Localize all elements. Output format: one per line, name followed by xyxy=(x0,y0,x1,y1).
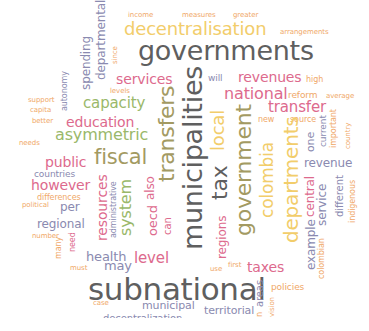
word-regions: regions xyxy=(216,216,228,259)
word-first: first xyxy=(228,262,241,269)
word-government: government xyxy=(233,104,255,236)
word-since: since xyxy=(112,46,119,64)
word-one: one xyxy=(305,132,316,152)
word-municipalities: municipalities xyxy=(179,66,206,250)
word-transfer: transfer xyxy=(268,100,326,115)
word-can: can xyxy=(163,217,173,235)
word-capita: capita xyxy=(30,107,51,114)
word-local: local xyxy=(209,110,227,151)
word-departmental: departmental xyxy=(95,0,107,80)
word-indigenous: indigenous xyxy=(349,180,357,223)
word-important: important xyxy=(330,109,338,148)
word-case: case xyxy=(93,300,109,307)
word-revenues: revenues xyxy=(238,70,302,84)
word-need: need xyxy=(69,232,77,252)
word-per: per xyxy=(60,201,80,213)
word-needs: needs xyxy=(19,140,40,147)
word-level: level xyxy=(134,251,169,266)
word-n: n xyxy=(256,312,264,317)
word-many: many xyxy=(55,237,63,259)
word-tax: tax xyxy=(209,166,231,200)
word-fiscal: fiscal xyxy=(94,147,147,168)
word-capacity: capacity xyxy=(83,96,145,111)
word-departments: departments xyxy=(281,116,301,243)
word-country: country xyxy=(345,123,352,149)
word-autonomy: autonomy xyxy=(61,71,69,111)
word-system: system xyxy=(118,179,134,236)
word-also: also xyxy=(144,176,156,200)
word-spending: spending xyxy=(80,36,92,90)
word-oecd: oecd xyxy=(146,205,159,236)
word-vision: vision xyxy=(269,297,276,317)
word-territorial: territorial xyxy=(204,305,254,316)
word-policies: policies xyxy=(271,283,304,292)
word-will: will xyxy=(208,74,223,83)
word-public: public xyxy=(45,155,86,169)
word-example: example xyxy=(305,219,317,270)
word-different: different xyxy=(335,175,345,217)
word-support: support xyxy=(28,97,54,104)
word-revenue: revenue xyxy=(304,157,352,169)
word-cloud: incomemeasuresgreaterdecentralisationarr… xyxy=(0,0,369,331)
word-asymmetric: asymmetric xyxy=(55,127,148,143)
word-new: new xyxy=(258,116,274,124)
bottom-mask xyxy=(0,318,369,331)
word-colombian: colombian xyxy=(318,238,326,279)
word-transfers: transfers xyxy=(156,86,178,182)
word-areas: areas xyxy=(255,280,265,307)
word-colombia: colombia xyxy=(259,142,276,218)
word-governments: governments xyxy=(138,37,314,64)
word-however: however xyxy=(31,178,90,192)
word-high: high xyxy=(306,76,323,84)
word-municipal: municipal xyxy=(142,300,195,311)
word-resources: resources xyxy=(95,174,109,241)
word-services: services xyxy=(116,72,172,86)
word-average: average xyxy=(326,93,354,100)
word-current: current xyxy=(319,115,328,147)
word-political: political xyxy=(22,202,49,209)
word-better: better xyxy=(32,118,53,125)
word-must: must xyxy=(70,265,87,272)
word-regional: regional xyxy=(37,218,85,230)
